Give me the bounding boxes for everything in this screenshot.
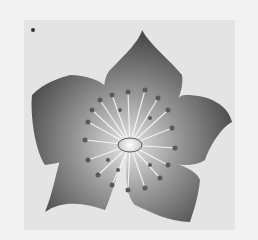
flower-center: [118, 138, 142, 152]
flower-illustration: [0, 0, 258, 240]
